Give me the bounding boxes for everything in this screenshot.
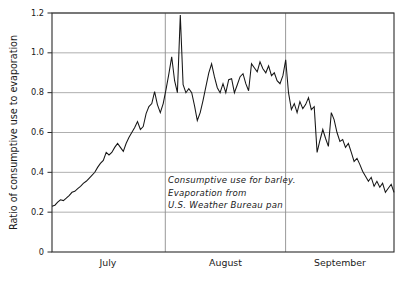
annotation-line-2: Evaporation from (168, 188, 247, 198)
line-chart-svg: 1.2 1.0 0.8 0.6 0.4 0.2 0 Ratio of consu… (0, 0, 413, 288)
ytick-label-0: 0 (39, 247, 44, 257)
x-axis-tick-labels: July August September (99, 257, 366, 268)
y-axis-ticks (48, 13, 53, 252)
ytick-label-0.2: 0.2 (31, 207, 44, 217)
ytick-label-0.6: 0.6 (31, 127, 44, 137)
y-axis-tick-labels: 1.2 1.0 0.8 0.6 0.4 0.2 0 (31, 8, 44, 257)
ytick-label-0.8: 0.8 (31, 87, 44, 97)
ytick-label-0.4: 0.4 (31, 167, 44, 177)
annotation-line-1: Consumptive use for barley. (168, 175, 296, 185)
xtick-label-august: August (209, 257, 242, 268)
chart-annotation: Consumptive use for barley. Evaporation … (168, 175, 296, 210)
y-axis-title-group: Ratio of consumptive use to evaporation (8, 35, 19, 230)
y-axis-title: Ratio of consumptive use to evaporation (8, 35, 19, 230)
chart-figure: 1.2 1.0 0.8 0.6 0.4 0.2 0 Ratio of consu… (0, 0, 413, 288)
ytick-label-1.0: 1.0 (31, 47, 44, 57)
xtick-label-september: September (314, 257, 366, 268)
annotation-line-3: U.S. Weather Bureau pan (168, 200, 283, 210)
xtick-label-july: July (99, 257, 117, 268)
ytick-label-1.2: 1.2 (31, 8, 44, 18)
